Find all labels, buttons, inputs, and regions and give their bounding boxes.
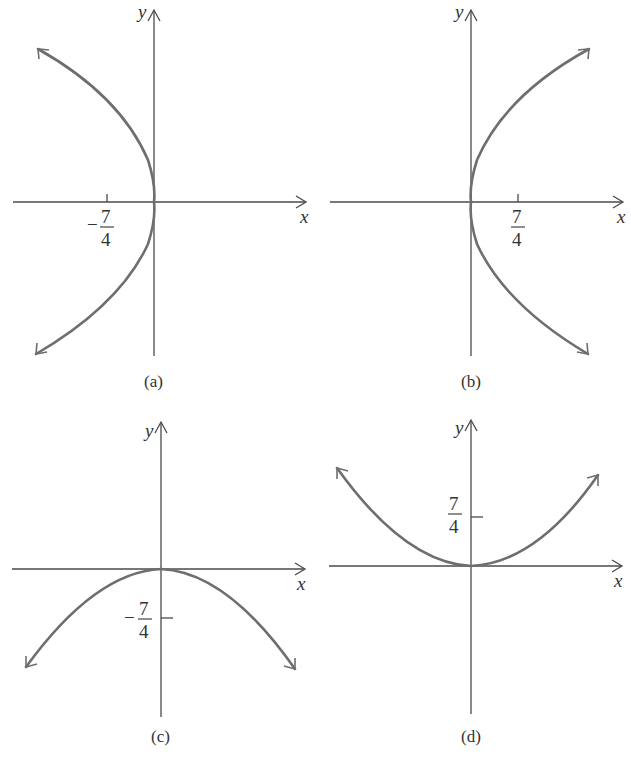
tick-numerator: 7 — [512, 206, 522, 227]
tick-numerator: 7 — [449, 493, 459, 514]
tick-denominator: 4 — [449, 516, 459, 537]
tick-sign: − — [87, 214, 98, 235]
tick-numerator: 7 — [139, 598, 149, 619]
parabola-curve — [337, 468, 598, 566]
panel-b: x y 7 4 (b) — [330, 1, 626, 391]
y-axis-label: y — [136, 1, 147, 22]
tick-sign: − — [124, 607, 135, 628]
x-axis-label: x — [296, 573, 306, 594]
tick-numerator: 7 — [101, 206, 111, 227]
parabola-figure: x y − 7 4 (a) x y 7 4 (b) x y − 7 — [0, 0, 631, 759]
panel-caption: (b) — [461, 372, 481, 391]
tick-denominator: 4 — [101, 229, 111, 250]
y-axis-label: y — [453, 417, 464, 438]
panel-caption: (a) — [144, 372, 163, 391]
panel-caption: (d) — [461, 727, 481, 746]
x-axis-label: x — [299, 206, 309, 227]
tick-denominator: 4 — [512, 229, 522, 250]
panel-a: x y − 7 4 (a) — [13, 1, 309, 391]
panel-d: x y 7 4 (d) — [329, 417, 623, 746]
y-axis-label: y — [453, 1, 464, 22]
x-axis-label: x — [616, 206, 626, 227]
panel-caption: (c) — [151, 727, 170, 746]
x-axis-label: x — [613, 570, 623, 591]
tick-denominator: 4 — [139, 621, 149, 642]
panel-c: x y − 7 4 (c) — [12, 420, 306, 746]
y-axis-label: y — [143, 420, 154, 441]
